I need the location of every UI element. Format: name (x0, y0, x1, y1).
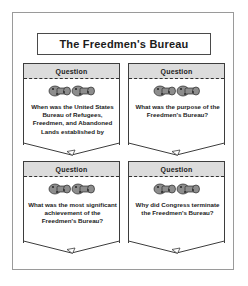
cannon-ornament-icon (129, 179, 224, 199)
question-text: What was the purpose of the Freedmen's B… (133, 103, 222, 119)
card-header-label: Question (56, 68, 88, 75)
card-header-band: Question (129, 64, 224, 79)
card-header-band: Question (129, 162, 224, 177)
cannon-ornament-icon (24, 81, 119, 101)
card-body: Question (23, 63, 120, 145)
card-header-band: Question (24, 64, 119, 79)
question-card[interactable]: Question (128, 161, 225, 254)
page-title: The Freedmen's Bureau (59, 38, 188, 50)
card-body: Question (23, 161, 120, 243)
cannon-ornament-icon (129, 81, 224, 101)
question-card[interactable]: Question (23, 161, 120, 254)
card-body: Question (128, 161, 225, 243)
card-header-band: Question (24, 162, 119, 177)
question-text: Why did Congress terminate the Freedmen'… (133, 201, 222, 217)
card-header-label: Question (161, 68, 193, 75)
question-card-grid: Question (21, 63, 227, 263)
card-pennant-point (128, 235, 225, 254)
page-title-box: The Freedmen's Bureau (37, 33, 211, 55)
worksheet-page: The Freedmen's Bureau Question (12, 12, 234, 270)
card-pennant-point (128, 137, 225, 156)
card-header-label: Question (161, 166, 193, 173)
card-body: Question (128, 63, 225, 145)
card-header-label: Question (56, 166, 88, 173)
question-card[interactable]: Question (23, 63, 120, 156)
question-card[interactable]: Question (128, 63, 225, 156)
question-text: What was the most significant achievemen… (28, 201, 117, 226)
card-pennant-point (23, 137, 120, 156)
card-pennant-point (23, 235, 120, 254)
cannon-ornament-icon (24, 179, 119, 199)
